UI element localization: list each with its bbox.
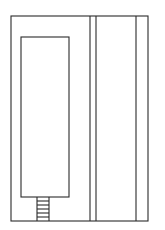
outer-frame (11, 16, 148, 221)
floor-plan-diagram (0, 0, 165, 230)
stairs-icon (37, 197, 49, 221)
inner-room (21, 37, 69, 197)
